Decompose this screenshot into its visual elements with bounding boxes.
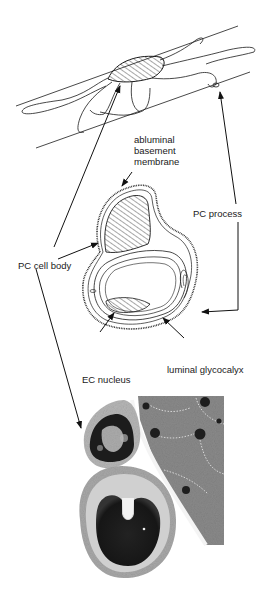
label-ec-nucleus: EC nucleus (82, 374, 131, 385)
diagram-canvas (0, 0, 270, 591)
electron-micrograph (79, 396, 224, 578)
arrow-luminal-glycocalyx (163, 318, 184, 338)
pericyte-diagram: abluminal basement membrane PC process P… (0, 0, 270, 591)
capillary-cross-section-drawing (83, 185, 198, 329)
label-basement: basement (134, 145, 176, 156)
arrow-pc-body-em (36, 269, 81, 428)
arrow-pc-process-top (220, 92, 236, 204)
label-luminal-glycocalyx: luminal glycocalyx (167, 364, 244, 375)
label-pc-process: PC process (193, 208, 242, 219)
arrow-pc-process-cross (202, 222, 238, 312)
arrow-pc-body-cross (58, 243, 98, 259)
label-abluminal: abluminal (134, 134, 175, 145)
label-pc-cell-body: PC cell body (18, 260, 71, 271)
label-membrane: membrane (134, 156, 179, 167)
arrow-abluminal (122, 172, 132, 186)
capillary-longitudinal-sketch (16, 26, 255, 148)
